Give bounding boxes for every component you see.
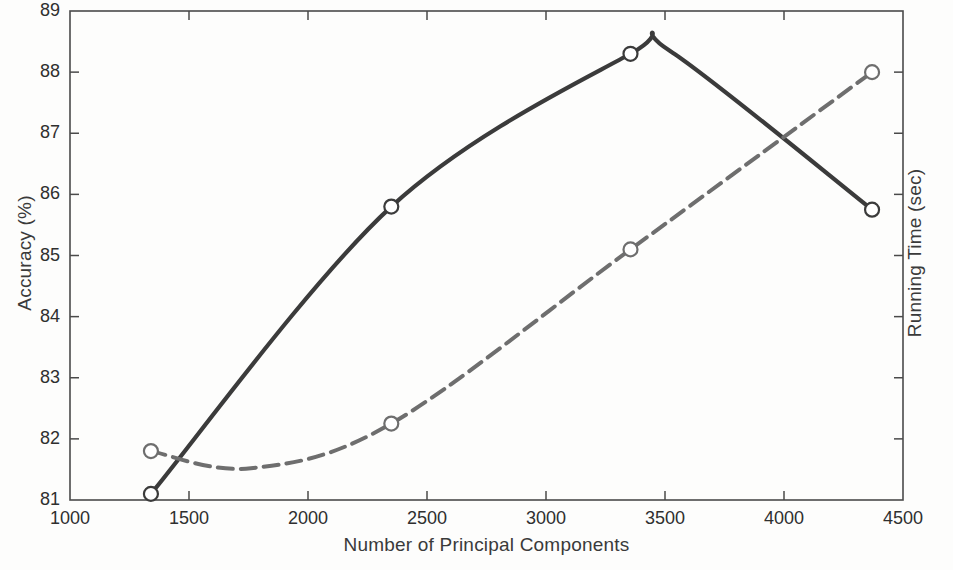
x-axis-title: Number of Principal Components bbox=[70, 534, 903, 556]
data-point-marker bbox=[623, 242, 637, 256]
data-point-marker bbox=[865, 65, 879, 79]
accuracy-line bbox=[151, 33, 872, 494]
y-axis-right-title: Running Time (sec) bbox=[904, 133, 926, 373]
data-point-marker bbox=[384, 417, 398, 431]
data-point-marker bbox=[384, 200, 398, 214]
plot-area bbox=[0, 0, 953, 570]
data-point-marker bbox=[623, 47, 637, 61]
x-tick-label: 1500 bbox=[149, 508, 229, 529]
y-tick-label: 82 bbox=[18, 428, 60, 449]
data-point-marker bbox=[144, 444, 158, 458]
data-series bbox=[144, 33, 879, 501]
plot-frame bbox=[70, 11, 903, 500]
y-tick-label: 83 bbox=[18, 367, 60, 388]
y-tick-label: 87 bbox=[18, 122, 60, 143]
axis-ticks bbox=[70, 11, 903, 500]
data-point-marker bbox=[865, 203, 879, 217]
y-tick-label: 85 bbox=[18, 245, 60, 266]
data-point-marker bbox=[144, 487, 158, 501]
x-tick-label: 2000 bbox=[268, 508, 348, 529]
y-tick-label: 86 bbox=[18, 183, 60, 204]
y-tick-label: 88 bbox=[18, 61, 60, 82]
y-tick-label: 84 bbox=[18, 306, 60, 327]
y-tick-label: 89 bbox=[18, 0, 60, 21]
series-1 bbox=[144, 33, 879, 501]
chart-figure: Accuracy (%) Running Time (sec) Number o… bbox=[0, 0, 953, 570]
x-tick-label: 3000 bbox=[506, 508, 586, 529]
x-tick-label: 1000 bbox=[30, 508, 110, 529]
running-time-line bbox=[151, 72, 872, 469]
x-tick-label: 4500 bbox=[863, 508, 943, 529]
x-tick-label: 4000 bbox=[744, 508, 824, 529]
plot-border bbox=[70, 11, 903, 500]
y-tick-label: 81 bbox=[18, 489, 60, 510]
x-tick-label: 2500 bbox=[387, 508, 467, 529]
x-tick-label: 3500 bbox=[625, 508, 705, 529]
